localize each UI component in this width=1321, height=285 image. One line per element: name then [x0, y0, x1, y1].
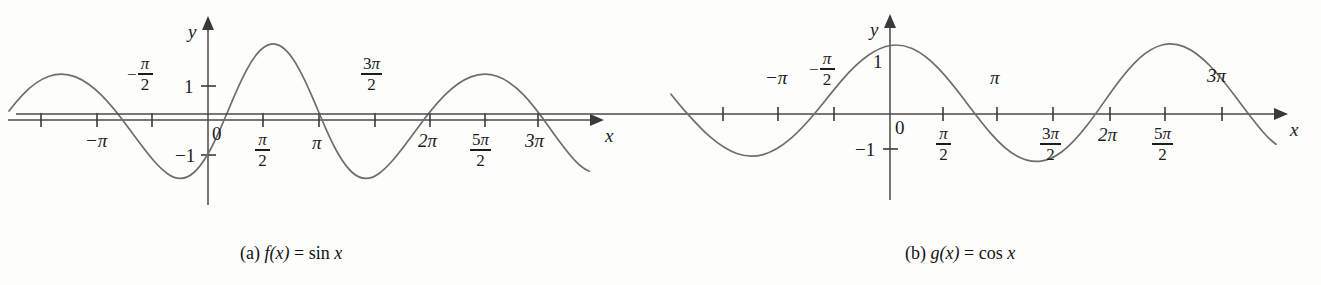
x-tick-label-three-pi-over-2-a: 3π 2	[361, 55, 382, 93]
x-axis-label-b: x	[1290, 120, 1298, 139]
fraction: π 2	[138, 55, 153, 93]
x-axis-arrowhead-b	[1274, 108, 1288, 120]
x-tick-label-three-pi-a: 3π	[525, 131, 544, 150]
y-tick-label-one-b: 1	[873, 52, 883, 71]
caption-expression: cos	[979, 243, 1003, 263]
caption-function-name: g	[931, 243, 940, 263]
caption-argument: (x)	[270, 243, 290, 263]
minus-sign: −	[127, 66, 137, 83]
fraction: π 2	[255, 131, 270, 169]
x-tick-label-three-pi-over-2-b: 3π 2	[1040, 125, 1061, 163]
x-tick-label-pi-over-2-b: π 2	[936, 125, 951, 163]
x-tick-label-five-pi-over-2-a: 5π 2	[470, 131, 491, 169]
graph-cos-x	[660, 0, 1321, 230]
minus-sign: −	[809, 61, 819, 78]
y-axis-label-a: y	[188, 22, 196, 41]
origin-label-b: 0	[895, 118, 905, 137]
y-tick-label-minus-one-a: −1	[175, 146, 195, 165]
x-tick-label-two-pi-a: 2π	[418, 131, 437, 150]
y-axis-arrowhead-b	[884, 14, 896, 28]
y-tick-label-minus-one-b: −1	[855, 140, 875, 159]
graph-sin-x	[0, 0, 660, 230]
x-tick-label-pi-b: π	[990, 68, 1000, 87]
fraction: 3π 2	[361, 55, 382, 93]
x-tick-label-minus-pi-over-2-b: − π 2	[809, 50, 835, 88]
fraction: 3π 2	[1040, 125, 1061, 163]
caption-variable: x	[1007, 243, 1015, 263]
x-tick-label-minus-pi-over-2-a: − π 2	[127, 55, 153, 93]
fraction: 5π 2	[470, 131, 491, 169]
caption-panel-b: (b) g(x) = cos x	[905, 243, 1015, 264]
caption-prefix: (b)	[905, 243, 926, 263]
x-tick-label-pi-a: π	[312, 133, 322, 152]
x-tick-label-five-pi-over-2-b: 5π 2	[1152, 125, 1173, 163]
fraction: π 2	[936, 125, 951, 163]
x-axis-label-a: x	[605, 126, 613, 145]
y-axis-label-b: y	[870, 20, 878, 39]
x-tick-label-two-pi-b: 2π	[1098, 125, 1117, 144]
caption-variable: x	[334, 243, 342, 263]
sin-curve	[9, 44, 589, 179]
caption-panel-a: (a) f(x) = sin x	[240, 243, 342, 264]
x-tick-label-minus-pi-a: −π	[85, 131, 107, 150]
y-axis-arrowhead-a	[202, 16, 214, 30]
caption-prefix: (a)	[240, 243, 260, 263]
caption-equals: =	[294, 243, 304, 263]
cos-curve	[671, 44, 1276, 162]
x-tick-label-minus-pi-b: −π	[765, 68, 787, 87]
fraction: π 2	[820, 50, 835, 88]
caption-expression: sin	[309, 243, 330, 263]
fraction: 5π 2	[1152, 125, 1173, 163]
y-tick-label-one-a: 1	[184, 77, 194, 96]
x-tick-label-pi-over-2-a: π 2	[255, 131, 270, 169]
figure-container: y x 0 1 −1 −π − π 2 π 2 π 3π 2 2π 5π	[0, 0, 1321, 285]
x-tick-label-three-pi-b: 3π	[1207, 66, 1226, 85]
x-axis-arrowhead-a	[590, 114, 604, 126]
caption-equals: =	[964, 243, 974, 263]
caption-argument: (x)	[940, 243, 960, 263]
origin-label-a: 0	[212, 124, 222, 143]
